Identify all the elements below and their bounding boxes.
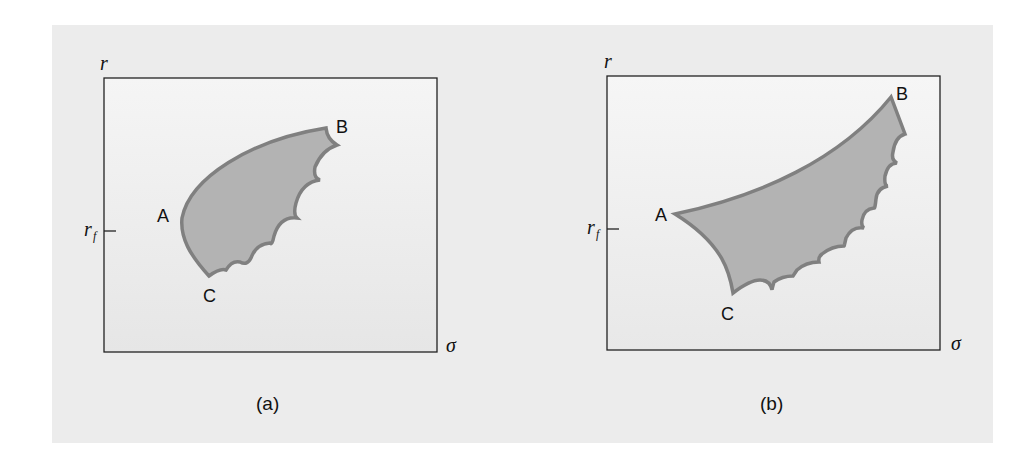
- point-A-label-b: A: [655, 205, 667, 225]
- panel-a: r σ r f A B C (a): [84, 52, 457, 414]
- point-C-label-a: C: [203, 286, 216, 306]
- x-axis-label-a: σ: [446, 334, 457, 356]
- point-B-label-b: B: [896, 84, 908, 104]
- y-axis-label-a: r: [100, 52, 108, 74]
- point-C-label-b: C: [721, 304, 734, 324]
- point-B-label-a: B: [336, 117, 348, 137]
- rf-label-a: r: [84, 218, 92, 240]
- panel-b: r σ r f A B C (b): [587, 50, 962, 414]
- point-A-label-a: A: [157, 206, 169, 226]
- caption-b: (b): [760, 393, 783, 414]
- figure: r σ r f A B C (a) r σ r f A B C (b): [0, 0, 1035, 451]
- x-axis-label-b: σ: [951, 332, 962, 354]
- rf-subscript-a: f: [93, 229, 98, 243]
- rf-subscript-b: f: [596, 227, 601, 241]
- rf-label-b: r: [587, 216, 595, 238]
- y-axis-label-b: r: [604, 50, 612, 72]
- caption-a: (a): [256, 393, 279, 414]
